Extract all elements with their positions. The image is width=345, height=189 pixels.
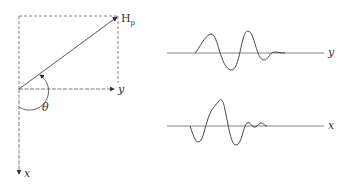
y-waveform-label: y [328, 47, 334, 58]
diagram-canvas [0, 0, 345, 189]
hp-vector-arrow [19, 17, 117, 89]
y-waveform [167, 31, 324, 70]
theta-label: θ [42, 102, 49, 113]
hp-vector-label: Hp [121, 13, 135, 27]
x-axis-label: x [24, 168, 30, 179]
x-waveform [167, 100, 324, 145]
y-axis-label: y [118, 84, 124, 95]
x-waveform-label: x [328, 120, 334, 131]
